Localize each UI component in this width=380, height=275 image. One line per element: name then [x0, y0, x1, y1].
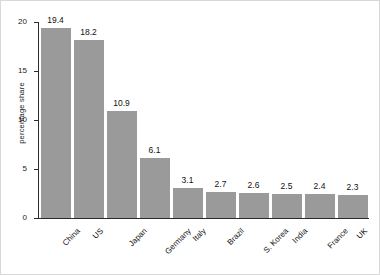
y-tick-label: 20: [3, 18, 27, 26]
bar-group[interactable]: 2.5India: [272, 22, 302, 218]
x-tick-label-text: US: [90, 226, 104, 240]
bar-rect[interactable]: [305, 194, 335, 218]
bar-value-label: 2.3: [332, 183, 374, 192]
x-tick-label: US: [92, 225, 106, 239]
bar-rect[interactable]: [74, 40, 104, 218]
x-tick-label: China: [62, 225, 83, 246]
x-tick-label: Brazil: [226, 225, 247, 246]
x-tick-label-text: S. Korea: [261, 226, 289, 254]
x-tick-label-text: Japan: [126, 226, 148, 248]
x-tick-label-text: Italy: [190, 226, 207, 243]
y-axis-title: percentage share: [15, 8, 29, 218]
bar-group[interactable]: 3.1Italy: [173, 22, 203, 218]
bar-group[interactable]: 19.4China: [41, 22, 71, 218]
bar-value-label: 6.1: [134, 146, 176, 155]
bar-group[interactable]: 2.3UK: [338, 22, 368, 218]
y-tick-label: 0: [3, 214, 27, 222]
bar-rect[interactable]: [239, 193, 269, 218]
x-tick-label-text: UK: [354, 226, 368, 240]
x-tick-label-text: France: [325, 226, 349, 250]
bar-group[interactable]: 10.9Japan: [107, 22, 137, 218]
bar-group[interactable]: 6.1Germany: [140, 22, 170, 218]
x-tick-label-text: Brazil: [225, 226, 246, 247]
bar-group[interactable]: 18.2US: [74, 22, 104, 218]
bar-group[interactable]: 2.7Brazil: [206, 22, 236, 218]
x-tick-label: Japan: [128, 225, 150, 247]
bar-rect[interactable]: [41, 28, 71, 218]
y-tick-label: 15: [3, 67, 27, 75]
bar-value-label: 18.2: [68, 28, 110, 37]
x-tick-label: S. Korea: [263, 225, 291, 253]
bar-rect[interactable]: [206, 192, 236, 218]
y-tick-label: 5: [3, 165, 27, 173]
x-tick-label: Italy: [192, 225, 209, 242]
bar-group[interactable]: 2.6S. Korea: [239, 22, 269, 218]
bar-value-label: 19.4: [35, 16, 77, 25]
bar-chart: percentage share 05101520 19.4China18.2U…: [0, 0, 380, 275]
x-tick-label-text: India: [290, 226, 309, 245]
x-tick-label: India: [292, 225, 311, 244]
bar-group[interactable]: 2.4France: [305, 22, 335, 218]
x-tick-label: France: [327, 225, 351, 249]
bar-rect[interactable]: [173, 188, 203, 218]
bar-rect[interactable]: [338, 195, 368, 218]
x-axis-line: [38, 218, 369, 219]
bar-rect[interactable]: [272, 194, 302, 219]
bar-value-label: 10.9: [101, 99, 143, 108]
bar-rect[interactable]: [107, 111, 137, 218]
y-tick-label: 10: [3, 116, 27, 124]
bar-rect[interactable]: [140, 158, 170, 218]
x-tick-label-text: China: [60, 226, 81, 247]
x-tick-label-text: Germany: [163, 226, 193, 256]
x-tick-label: Germany: [164, 225, 194, 255]
bars-layer: 19.4China18.2US10.9Japan6.1Germany3.1Ita…: [39, 22, 369, 218]
x-tick-label: UK: [356, 225, 370, 239]
